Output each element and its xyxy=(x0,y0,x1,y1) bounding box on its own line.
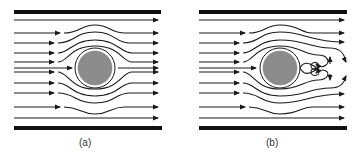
panel-a xyxy=(14,10,162,130)
bottom-wall xyxy=(199,126,347,130)
bottom-wall xyxy=(14,126,162,130)
flow-diagram xyxy=(0,0,362,155)
top-wall xyxy=(14,10,161,14)
top-wall xyxy=(199,10,347,14)
panel-b xyxy=(199,10,347,130)
panel-label-a: (a) xyxy=(79,137,91,148)
panel-label-b: (b) xyxy=(266,137,278,148)
